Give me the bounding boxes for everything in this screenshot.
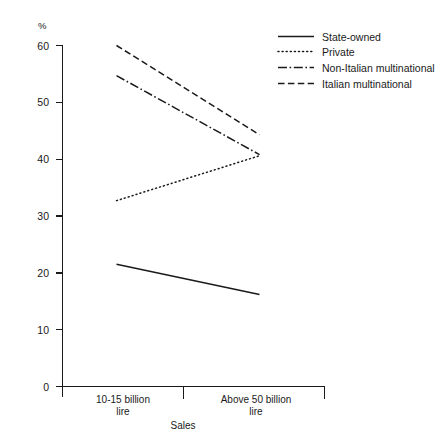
series-line-state-owned xyxy=(117,264,260,294)
category-label-2-line1: Above 50 billion xyxy=(221,394,292,405)
category-label-1-line1: 10-15 billion xyxy=(96,394,150,405)
y-tick-label-20: 20 xyxy=(37,267,49,279)
legend-label-non-italian-multinational: Non-Italian multinational xyxy=(322,62,435,74)
legend-label-state-owned: State-owned xyxy=(322,31,381,43)
legend: State-owned Private Non-Italian multinat… xyxy=(278,31,435,90)
y-axis-unit-label: % xyxy=(38,20,47,31)
line-chart-svg: % 60 50 40 30 20 10 0 10-15 billion lire… xyxy=(0,0,447,445)
series-group xyxy=(117,46,260,295)
series-line-private xyxy=(117,156,260,201)
legend-label-private: Private xyxy=(322,46,355,58)
category-label-2-line2: lire xyxy=(249,406,263,417)
category-label-1-line2: lire xyxy=(116,406,130,417)
series-line-non-italian-multinational xyxy=(117,76,260,155)
legend-label-italian-multinational: Italian multinational xyxy=(322,78,412,90)
x-axis-title: Sales xyxy=(170,420,195,431)
y-tick-label-0: 0 xyxy=(43,381,49,393)
chart-container: % 60 50 40 30 20 10 0 10-15 billion lire… xyxy=(0,0,447,445)
y-tick-label-30: 30 xyxy=(37,210,49,222)
y-tick-label-40: 40 xyxy=(37,153,49,165)
y-tick-label-60: 60 xyxy=(37,40,49,52)
y-tick-label-50: 50 xyxy=(37,96,49,108)
series-line-italian-multinational xyxy=(117,46,260,135)
y-tick-label-10: 10 xyxy=(37,324,49,336)
